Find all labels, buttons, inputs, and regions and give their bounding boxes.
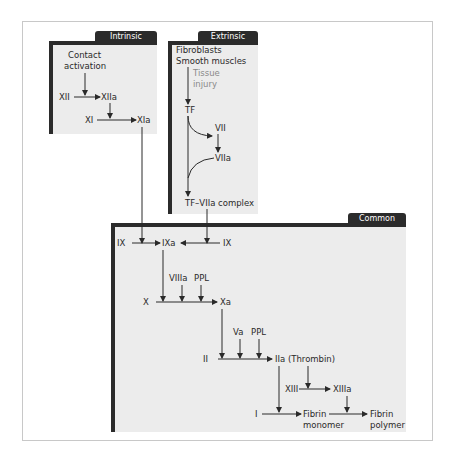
pathway-arrows xyxy=(0,0,450,460)
